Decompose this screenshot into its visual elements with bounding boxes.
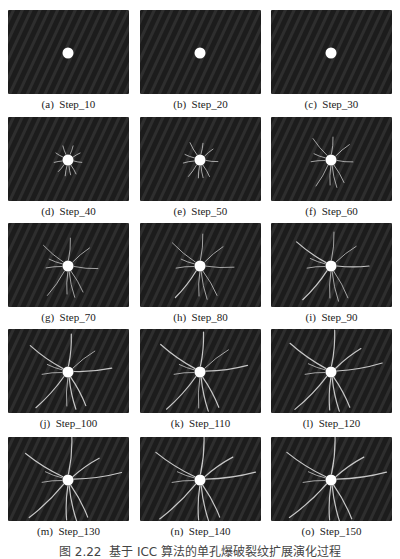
crack-line bbox=[42, 480, 62, 482]
crack-line bbox=[66, 378, 67, 406]
crack-line bbox=[172, 243, 195, 262]
crack-line bbox=[336, 246, 357, 262]
crack-line bbox=[205, 247, 223, 262]
crack-line bbox=[307, 266, 325, 268]
crack-line bbox=[332, 378, 339, 411]
crack-line bbox=[73, 351, 95, 368]
crack-line bbox=[54, 161, 62, 162]
panel-j: (j) Step_100 bbox=[8, 329, 129, 413]
panel-label: (i) Step_90 bbox=[271, 311, 392, 323]
crack-line bbox=[303, 271, 327, 300]
crack-line bbox=[174, 372, 194, 374]
crack-line bbox=[329, 486, 331, 520]
crack-line bbox=[203, 165, 210, 176]
crack-simulation-image bbox=[8, 10, 129, 94]
crack-line bbox=[42, 372, 62, 374]
panel-label: (j) Step_100 bbox=[8, 417, 129, 429]
crack-simulation-image bbox=[8, 437, 129, 521]
crack-simulation-image bbox=[140, 223, 261, 307]
crack-line bbox=[337, 363, 382, 371]
crack-line bbox=[74, 161, 82, 162]
crack-pattern-graphic bbox=[140, 223, 261, 307]
crack-simulation-image bbox=[140, 437, 261, 521]
crack-line bbox=[336, 457, 364, 477]
crack-line bbox=[332, 330, 335, 366]
crack-line bbox=[71, 165, 76, 174]
crack-line bbox=[73, 153, 80, 157]
borehole-circle bbox=[63, 48, 74, 59]
panel-label: (g) Step_70 bbox=[8, 311, 129, 323]
panel-label: (d) Step_40 bbox=[8, 205, 129, 217]
borehole-circle bbox=[63, 367, 74, 378]
crack-line bbox=[58, 165, 64, 172]
panel-o: (o) Step_150 bbox=[271, 437, 392, 521]
crack-line bbox=[206, 472, 256, 479]
borehole-circle bbox=[195, 261, 206, 272]
crack-line bbox=[198, 378, 200, 408]
crack-line bbox=[69, 486, 77, 521]
crack-line bbox=[67, 272, 68, 294]
borehole-circle bbox=[195, 475, 206, 486]
crack-line bbox=[329, 378, 331, 410]
crack-line bbox=[69, 238, 71, 260]
panel-label: (f) Step_60 bbox=[271, 205, 392, 217]
crack-pattern-graphic bbox=[140, 10, 261, 94]
crack-simulation-image bbox=[8, 117, 129, 201]
panel-label: (k) Step_110 bbox=[140, 417, 261, 429]
borehole-circle bbox=[195, 48, 206, 59]
crack-line bbox=[311, 160, 325, 161]
crack-line bbox=[332, 232, 335, 260]
crack-simulation-image bbox=[271, 437, 392, 521]
crack-line bbox=[332, 437, 336, 474]
crack-line bbox=[71, 271, 83, 292]
crack-line bbox=[30, 346, 63, 369]
crack-pattern-graphic bbox=[271, 223, 392, 307]
crack-line bbox=[303, 480, 325, 482]
crack-line bbox=[330, 166, 331, 185]
crack-line bbox=[305, 372, 325, 374]
crack-line bbox=[336, 349, 361, 369]
crack-line bbox=[290, 343, 326, 368]
crack-line bbox=[314, 154, 325, 158]
crack-line bbox=[203, 485, 220, 517]
borehole-circle bbox=[195, 155, 206, 166]
crack-simulation-image bbox=[140, 329, 261, 413]
crack-line bbox=[201, 332, 204, 366]
crack-line bbox=[316, 165, 328, 186]
crack-line bbox=[206, 161, 218, 162]
crack-line bbox=[74, 368, 112, 371]
panel-a: (a) Step_10 bbox=[8, 10, 129, 94]
crack-line bbox=[337, 266, 369, 267]
panel-c: (c) Step_30 bbox=[271, 10, 392, 94]
crack-line bbox=[73, 248, 90, 262]
panel-l: (l) Step_120 bbox=[271, 329, 392, 413]
crack-line bbox=[334, 485, 352, 519]
crack-simulation-image bbox=[271, 117, 392, 201]
crack-line bbox=[183, 161, 194, 163]
crack-line bbox=[65, 166, 67, 176]
panel-label: (h) Step_80 bbox=[140, 311, 261, 323]
panel-label: (c) Step_30 bbox=[271, 98, 392, 110]
crack-line bbox=[206, 266, 234, 267]
crack-line bbox=[190, 143, 197, 155]
crack-pattern-graphic bbox=[271, 117, 392, 201]
crack-line bbox=[337, 161, 353, 162]
borehole-circle bbox=[326, 261, 337, 272]
panel-label: (m) Step_130 bbox=[8, 525, 129, 537]
crack-line bbox=[63, 146, 66, 155]
panel-d: (d) Step_40 bbox=[8, 117, 129, 201]
crack-simulation-image bbox=[140, 117, 261, 201]
crack-line bbox=[201, 143, 203, 154]
crack-pattern-graphic bbox=[140, 117, 261, 201]
crack-line bbox=[201, 166, 203, 178]
crack-line bbox=[332, 166, 337, 188]
crack-simulation-image bbox=[271, 223, 392, 307]
crack-pattern-graphic bbox=[8, 117, 129, 201]
crack-line bbox=[336, 145, 350, 157]
crack-line bbox=[313, 139, 327, 156]
panel-m: (m) Step_130 bbox=[8, 437, 129, 521]
panel-e: (e) Step_50 bbox=[140, 117, 261, 201]
crack-line bbox=[74, 473, 122, 480]
crack-line bbox=[201, 378, 208, 411]
crack-pattern-graphic bbox=[140, 437, 261, 521]
